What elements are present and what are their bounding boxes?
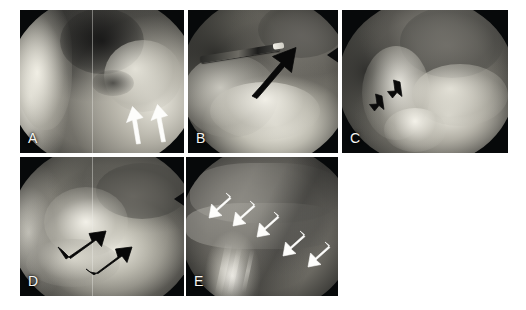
panel-label-a: A: [28, 131, 38, 145]
annotation-arrow-black: [246, 34, 304, 100]
scan-seam: [92, 10, 93, 153]
field-notch: [327, 46, 338, 64]
annotation-arrow-black: [56, 213, 134, 275]
panel-label-c: C: [350, 131, 361, 145]
panel-b: B: [188, 10, 338, 153]
figure-canvas: A B C: [0, 0, 526, 310]
panel-label-b: B: [196, 131, 206, 145]
annotation-arrow-white: [208, 187, 332, 269]
annotation-arrow-white: [116, 94, 180, 146]
panel-label-e: E: [194, 274, 204, 288]
field-notch: [174, 191, 184, 207]
annotation-arrow-black: [366, 76, 412, 116]
panel-label-d: D: [28, 274, 39, 288]
panel-c: C: [342, 10, 508, 153]
tissue-shadow: [92, 70, 134, 96]
panel-d: D: [20, 157, 184, 296]
panel-a: A: [20, 10, 184, 153]
panel-e: E: [186, 157, 338, 296]
